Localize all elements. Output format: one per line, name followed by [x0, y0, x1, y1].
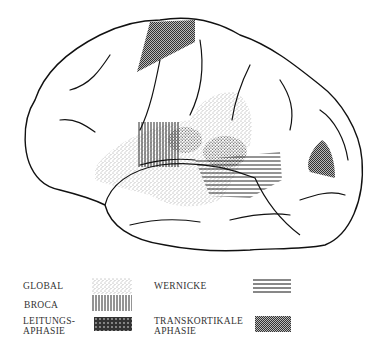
legend-label-line2: APHASIE: [154, 326, 243, 336]
legend-label-line1: TRANSKORTIKALE: [154, 316, 243, 326]
legend-label-wernicke: WERNICKE: [154, 281, 207, 291]
legend-swatch-global: [92, 278, 132, 294]
legend-label-line2: APHASIE: [23, 326, 75, 336]
legend-label-transkortikale: TRANSKORTIKALE APHASIE: [154, 316, 243, 336]
legend-label-global: GLOBAL: [23, 281, 63, 291]
legend-label-broca: BROCA: [24, 300, 58, 310]
leitungsaphasie-region: [168, 127, 202, 153]
legend-swatch-leitungsaphasie: [94, 317, 132, 331]
legend-label-line1: LEITUNGS-: [23, 316, 75, 326]
brain-diagram: [0, 0, 378, 260]
legend-swatch-transkortikale: [255, 316, 291, 332]
legend-label-leitungsaphasie: LEITUNGS- APHASIE: [23, 316, 75, 336]
legend-swatch-wernicke: [253, 278, 291, 294]
legend-swatch-broca: [92, 295, 132, 311]
